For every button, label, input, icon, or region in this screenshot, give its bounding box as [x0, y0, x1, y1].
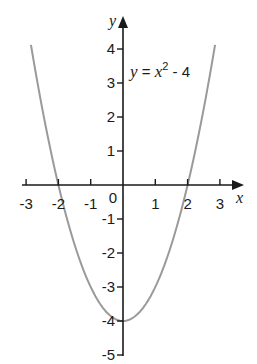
x-tick-label: 1 [151, 195, 159, 212]
y-tick-label: 2 [107, 108, 115, 125]
equation-label: y = x2 - 4 [128, 60, 190, 81]
x-tick-label: 3 [216, 195, 224, 212]
y-tick-label: -1 [102, 210, 115, 227]
y-tick-label: 4 [107, 40, 115, 57]
x-tick-label: -2 [52, 195, 65, 212]
y-tick-label: 3 [107, 74, 115, 91]
y-axis-title: y [107, 12, 117, 30]
tick-labels: -3-2-112304321-1-2-3-4-5 [19, 40, 224, 363]
y-tick-label: -4 [102, 312, 115, 329]
x-tick-label: 2 [183, 195, 191, 212]
x-tick-label: -3 [19, 195, 32, 212]
equation-y: y [128, 62, 138, 81]
parabola-chart: -3-2-112304321-1-2-3-4-5 x y y = x2 - 4 [0, 0, 257, 364]
equation-rest: - 4 [168, 63, 190, 80]
y-tick-label: -5 [102, 346, 115, 363]
origin-label: 0 [109, 189, 117, 206]
equation-eq: = [138, 63, 155, 80]
y-tick-label: -2 [102, 244, 115, 261]
x-tick-label: -1 [84, 195, 97, 212]
x-axis-title: x [235, 189, 243, 206]
y-tick-label: -3 [102, 278, 115, 295]
y-axis-arrow-icon [118, 16, 128, 28]
y-tick-label: 1 [107, 142, 115, 159]
